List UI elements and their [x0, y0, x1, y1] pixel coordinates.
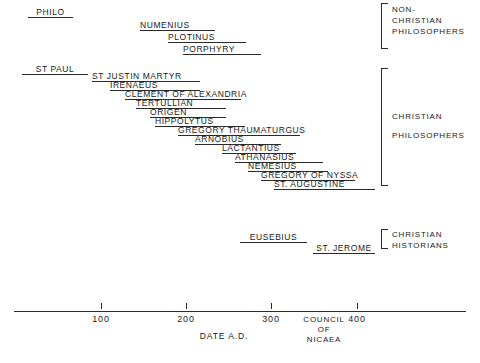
axis-tick-label-400: 400 — [348, 314, 366, 324]
bracket-label-non-christian-l2: CHRISTIAN — [392, 15, 442, 26]
bar-porphyry: PORPHYRY — [183, 42, 261, 55]
bar-st-paul: ST PAUL — [22, 62, 88, 75]
axis-tick-100 — [101, 303, 102, 309]
axis-title: DATE A.D. — [200, 331, 249, 341]
bar-label: NUMENIUS — [140, 20, 215, 30]
axis-line — [14, 311, 466, 312]
bar-label: PHILO — [28, 7, 73, 17]
bracket-label-christian-hist-l1: CHRISTIAN — [392, 229, 442, 240]
axis-tick-label-200: 200 — [177, 314, 195, 324]
bracket-label-non-christian-l3: PHILOSOPHERS — [392, 26, 465, 37]
bracket-label-christian-phil-l1: CHRISTIAN — [392, 111, 442, 122]
bracket-label-non-christian-l1: NON- — [392, 4, 416, 15]
bar-st-augustine: ST. AUGUSTINE — [274, 177, 375, 190]
bar-philo: PHILO — [28, 5, 73, 18]
axis-tick-200 — [186, 303, 187, 309]
bar-label: PORPHYRY — [183, 44, 261, 54]
bar-line — [28, 17, 73, 18]
bar-label: EUSEBIUS — [240, 232, 307, 242]
bracket-label-christian-phil-l2: PHILOSOPHERS — [392, 130, 465, 141]
axis-tick-400 — [357, 303, 358, 309]
timeline-chart: PHILO NUMENIUS PLOTINUS PORPHYRY ST PAUL… — [0, 0, 480, 363]
bar-label: ST PAUL — [22, 64, 88, 74]
annotation-council-of-nicaea-l2: OF — [318, 325, 331, 335]
bracket-label-christian-hist-l2: HISTORIANS — [392, 240, 449, 251]
bracket-non-christian-philosophers — [381, 3, 388, 49]
axis-tick-300 — [271, 303, 272, 309]
bar-st-jerome: ST. JEROME — [313, 241, 375, 254]
bar-eusebius: EUSEBIUS — [240, 230, 307, 243]
bar-label: PLOTINUS — [168, 32, 246, 42]
annotation-council-of-nicaea-l1: COUNCIL — [303, 315, 344, 325]
axis-tick-label-100: 100 — [92, 314, 110, 324]
bar-label: ST. JEROME — [313, 243, 375, 253]
annotation-council-of-nicaea-l3: NICAEA — [307, 335, 341, 345]
bracket-christian-philosophers — [381, 68, 388, 186]
bar-line — [274, 189, 375, 190]
bar-line — [313, 253, 375, 254]
bar-line — [183, 54, 261, 55]
bar-line — [22, 74, 88, 75]
bracket-christian-historians — [381, 229, 388, 249]
bar-line — [240, 242, 307, 243]
axis-tick-label-300: 300 — [262, 314, 280, 324]
bar-label: ST. AUGUSTINE — [274, 179, 375, 189]
